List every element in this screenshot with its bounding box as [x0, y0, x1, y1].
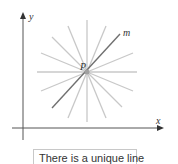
y-axis: [20, 12, 26, 140]
y-axis-label: y: [28, 11, 34, 22]
line-m-label: m: [123, 27, 130, 38]
x-axis: [12, 125, 164, 131]
pencil-of-lines-diagram: P m y x: [0, 0, 178, 164]
point-p-label: P: [79, 61, 86, 72]
caption: There is a unique line: [33, 149, 137, 164]
y-axis-arrow-icon: [20, 12, 26, 19]
x-axis-label: x: [155, 115, 161, 126]
